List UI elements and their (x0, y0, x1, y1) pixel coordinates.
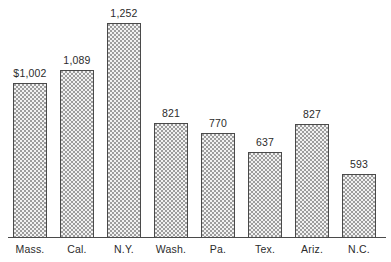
axis-label-pa: Pa. (201, 243, 235, 256)
bar-ariz (295, 124, 329, 238)
bar-group-tex: 637 (248, 152, 282, 238)
axis-label-wash: Wash. (152, 243, 190, 256)
axis-label-ny: N.Y. (107, 243, 141, 256)
bar-value-label: 770 (209, 117, 227, 129)
bar-ny (107, 23, 141, 238)
bar-group-ariz: 827 (295, 124, 329, 238)
bar-value-label: 1,089 (63, 54, 90, 66)
bar-group-wash: 821 (154, 123, 188, 238)
bar-tex (248, 152, 282, 238)
bar-value-label: $1,002 (13, 67, 46, 79)
axis-label-nc: N.C. (342, 243, 376, 256)
x-axis-tick-labels: Mass. Cal. N.Y. Wash. Pa. Tex. Ariz. N.C… (0, 240, 391, 262)
bar-group-pa: 770 (201, 133, 235, 238)
bar-pa (201, 133, 235, 238)
axis-label-mass: Mass. (13, 243, 47, 256)
bar-value-label: 637 (256, 136, 274, 148)
bar-group-nc: 593 (342, 174, 376, 238)
bar-mass (13, 83, 47, 238)
plot-area: $1,002 1,089 1,252 821 770 637 827 (0, 0, 391, 238)
bar-group-ny: 1,252 (107, 23, 141, 238)
bar-wash (154, 123, 188, 238)
axis-label-tex: Tex. (248, 243, 282, 256)
x-axis-line (8, 237, 386, 238)
bar-value-label: 821 (162, 107, 180, 119)
bar-value-label: 593 (350, 158, 368, 170)
bar-group-cal: 1,089 (60, 70, 94, 238)
bar-chart-figure: $1,002 1,089 1,252 821 770 637 827 (0, 0, 391, 262)
bar-cal (60, 70, 94, 238)
axis-label-ariz: Ariz. (295, 243, 329, 256)
bar-value-label: 1,252 (110, 7, 137, 19)
axis-label-cal: Cal. (60, 243, 94, 256)
bar-nc (342, 174, 376, 238)
bar-group-mass: $1,002 (13, 83, 47, 238)
bar-value-label: 827 (303, 108, 321, 120)
